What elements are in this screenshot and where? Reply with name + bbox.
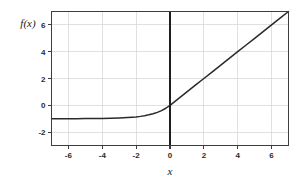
x-tick-label: 2 xyxy=(202,151,207,160)
x-tick-label: 4 xyxy=(235,151,240,160)
y-tick-label: -2 xyxy=(38,128,46,137)
chart-figure: -6-4-20246 -20246 x f(x) xyxy=(0,0,305,185)
x-tick-label: 6 xyxy=(269,151,274,160)
chart-background xyxy=(0,0,305,185)
x-tick-label: -4 xyxy=(99,151,107,160)
y-tick-label: 2 xyxy=(41,75,46,84)
y-tick-label: 0 xyxy=(41,101,46,110)
x-tick-label: -2 xyxy=(133,151,141,160)
x-tick-label: 0 xyxy=(168,151,173,160)
y-tick-label: 4 xyxy=(41,48,46,57)
y-tick-label: 6 xyxy=(41,21,46,30)
x-tick-label: -6 xyxy=(65,151,73,160)
elu-function-plot: -6-4-20246 -20246 x f(x) xyxy=(0,0,305,185)
y-axis-label: f(x) xyxy=(20,17,36,30)
x-axis-label: x xyxy=(167,165,173,177)
